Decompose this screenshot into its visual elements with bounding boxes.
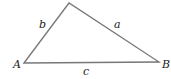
triangle-shape xyxy=(24,3,159,63)
side-label-b: b xyxy=(39,18,46,31)
side-label-c: c xyxy=(83,65,89,78)
vertex-label-b-upper: B xyxy=(161,58,170,71)
side-label-a: a xyxy=(114,18,121,31)
triangle-diagram: A B a b c xyxy=(0,0,171,79)
vertex-label-a-upper: A xyxy=(12,58,21,71)
